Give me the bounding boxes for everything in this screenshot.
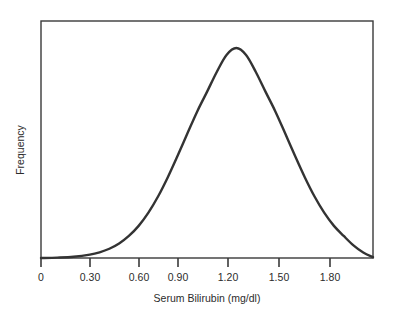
chart-canvas: 0 0.30 0.60 0.90 1.20 1.50 1.80 Serum Bi… (0, 0, 394, 323)
distribution-curve (41, 48, 373, 258)
x-tick-label-0: 0 (38, 271, 44, 283)
x-tick-label-1.20: 1.20 (218, 271, 239, 283)
x-axis-tick-labels: 0 0.30 0.60 0.90 1.20 1.50 1.80 (38, 271, 340, 283)
y-axis-title: Frequency (14, 124, 26, 174)
x-axis-title: Serum Bilirubin (mg/dl) (154, 292, 261, 304)
x-tick-label-1.50: 1.50 (269, 271, 290, 283)
x-tick-label-0.60: 0.60 (129, 271, 150, 283)
bilirubin-frequency-chart: 0 0.30 0.60 0.90 1.20 1.50 1.80 Serum Bi… (0, 0, 394, 323)
x-axis-ticks (41, 258, 330, 267)
plot-frame (41, 21, 373, 258)
x-tick-label-0.90: 0.90 (168, 271, 189, 283)
x-tick-label-0.30: 0.30 (80, 271, 101, 283)
x-tick-label-1.80: 1.80 (320, 271, 341, 283)
